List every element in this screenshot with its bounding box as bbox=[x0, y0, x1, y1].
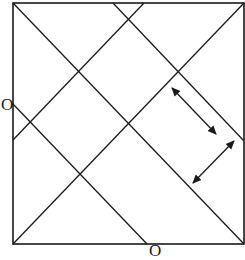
double-arrow-2-icon bbox=[193, 141, 234, 183]
double-arrow-1-icon bbox=[172, 88, 216, 134]
label-left-O: O bbox=[1, 96, 13, 113]
label-bottom-O: O bbox=[149, 242, 161, 259]
